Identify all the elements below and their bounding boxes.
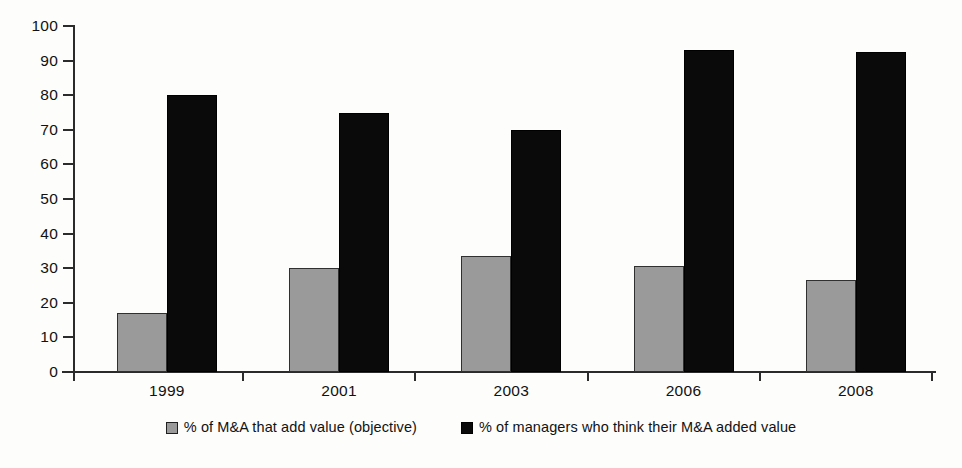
legend-item-1[interactable]: % of managers who think their M&A added … [461,420,796,435]
legend-label: % of managers who think their M&A added … [479,420,796,435]
x-axis-tick [931,373,933,381]
y-axis-tick [63,267,74,269]
y-axis-tick-label: 100 [14,18,58,34]
bar-2001-series-1 [339,113,389,373]
bar-2008-series-0 [806,280,856,372]
bar-2001-series-0 [289,268,339,372]
x-axis-tick [414,373,416,381]
y-axis-tick [63,302,74,304]
bar-2008-series-1 [856,52,906,372]
bar-2003-series-1 [511,130,561,372]
x-axis-category-label: 2008 [796,383,916,399]
y-axis-tick-label: 0 [14,364,58,380]
y-axis-tick [63,60,74,62]
y-axis-tick-label: 40 [14,226,58,242]
y-axis-tick [63,163,74,165]
bar-2003-series-0 [461,256,511,372]
y-axis-tick-label: 50 [14,191,58,207]
bar-1999-series-1 [167,95,217,372]
y-axis-tick [63,233,74,235]
x-axis-category-label: 2003 [451,383,571,399]
black-square-swatch [461,422,473,434]
y-axis-tick [63,129,74,131]
y-axis-tick-label: 20 [14,295,58,311]
y-axis-tick-label: 60 [14,156,58,172]
x-axis-tick [759,373,761,381]
x-axis-tick [587,373,589,381]
y-axis-tick [63,198,74,200]
y-axis-tick-label: 80 [14,87,58,103]
y-axis-tick [63,336,74,338]
y-axis-tick [63,94,74,96]
plot-area [74,26,935,372]
bar-chart: 0102030405060708090100 19992001200320062… [0,0,962,468]
y-axis-tick-label: 90 [14,53,58,69]
x-axis-tick-origin [73,373,75,381]
y-axis-tick-label: 30 [14,260,58,276]
legend-label: % of M&A that add value (objective) [184,420,417,435]
chart-legend: % of M&A that add value (objective)% of … [0,420,962,435]
gray-square-swatch [166,422,178,434]
bar-2006-series-0 [634,266,684,372]
x-axis-category-label: 1999 [107,383,227,399]
y-axis-tick [63,25,74,27]
x-axis-tick [242,373,244,381]
bar-1999-series-0 [117,313,167,372]
x-axis-category-label: 2006 [624,383,744,399]
y-axis-tick-label: 70 [14,122,58,138]
x-axis-category-label: 2001 [279,383,399,399]
bar-2006-series-1 [684,50,734,372]
legend-item-0[interactable]: % of M&A that add value (objective) [166,420,417,435]
y-axis-tick-label: 10 [14,329,58,345]
